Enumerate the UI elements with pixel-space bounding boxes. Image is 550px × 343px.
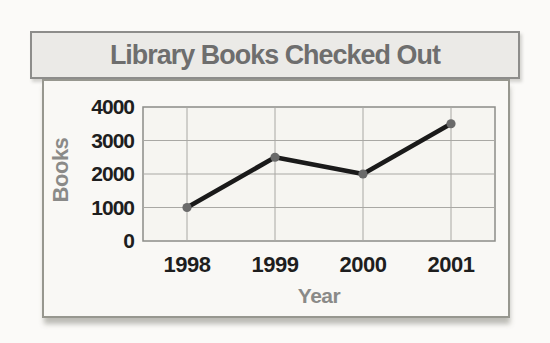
chart-title: Library Books Checked Out	[110, 39, 440, 71]
scanned-page: Library Books Checked Out 01000200030004…	[0, 0, 550, 343]
chart-panel: 010002000300040001998199920002001BooksYe…	[42, 79, 510, 318]
y-tick-label: 3000	[91, 129, 134, 152]
data-point-2000	[358, 169, 367, 178]
y-tick-label: 1000	[91, 196, 134, 219]
y-tick-label: 2000	[91, 162, 134, 185]
y-tick-label: 4000	[91, 95, 134, 118]
x-tick-label: 2000	[340, 252, 387, 277]
y-axis-title: Books	[48, 137, 73, 202]
data-point-2001	[446, 119, 455, 128]
x-axis-title: Year	[298, 284, 341, 307]
data-point-1999	[270, 153, 279, 162]
x-tick-label: 1999	[252, 252, 299, 277]
x-tick-label: 1998	[164, 252, 211, 277]
y-tick-label: 0	[123, 229, 134, 252]
x-tick-label: 2001	[428, 252, 475, 277]
chart-title-bar: Library Books Checked Out	[30, 31, 520, 79]
line-chart: 010002000300040001998199920002001BooksYe…	[44, 81, 508, 316]
data-point-1998	[182, 203, 191, 212]
